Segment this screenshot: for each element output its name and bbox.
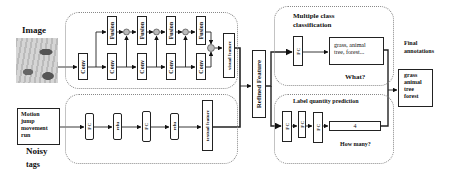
relu-label: relu	[115, 122, 120, 131]
classification-title-line2: classification	[293, 21, 332, 29]
noisy-tags-box: Motion jump movement run	[17, 108, 60, 145]
classification-output-box: grass, animal tree, forest...	[329, 37, 384, 65]
conv-block-1: Conv	[78, 53, 88, 80]
annotation-item: animal	[404, 79, 427, 86]
annotation-item: forest	[404, 93, 427, 100]
classification-output-line1: grass, animal	[334, 42, 379, 49]
fusion-label: Fusion	[139, 22, 145, 39]
textual-feature-label: textual feature	[205, 110, 210, 141]
final-title-line1: Final	[404, 40, 417, 47]
conv-block-5: Conv	[196, 53, 206, 80]
final-annotations-box: grass animal tree forest	[398, 69, 433, 107]
fusion-block-4: Fusion	[196, 16, 206, 45]
textual-feature-block: textual feature	[202, 100, 213, 151]
refined-feature-label: Refined Feature	[256, 60, 263, 108]
conv-label: Conv	[139, 60, 145, 74]
final-title-line2: annotations	[404, 48, 434, 55]
quantity-output-box: 4	[329, 121, 381, 131]
classification-fc-block: FC	[293, 36, 303, 66]
text-relu-block-1: relu	[113, 113, 122, 140]
fusion-label: Fusion	[168, 22, 174, 39]
visual-feature-label: visual feature	[227, 41, 232, 70]
fc-label: FC	[285, 123, 290, 130]
quantity-output-value: 4	[354, 123, 357, 130]
fusion-label: Fusion	[109, 22, 115, 39]
tag-item: movement	[21, 125, 56, 132]
visual-branch-panel	[65, 12, 238, 89]
relu-label: relu	[172, 122, 177, 131]
classification-title-line1: Multiple class	[293, 12, 334, 20]
fusion-block-3: Fusion	[166, 16, 176, 45]
conv-label: Conv	[80, 60, 86, 74]
quantity-question: How many?	[340, 141, 371, 147]
classification-output-line2: tree, forest...	[334, 49, 379, 56]
fc-label: FC	[300, 121, 305, 128]
fc-label: FC	[144, 123, 149, 130]
text-fc-block-2: FC	[142, 111, 151, 142]
tag-item: Motion	[21, 111, 56, 118]
fc-label: FC	[316, 124, 321, 131]
conv-label: Conv	[168, 60, 174, 74]
fc-label: FC	[87, 123, 92, 130]
annotation-item: tree	[404, 86, 427, 93]
input-photo	[16, 38, 58, 83]
fusion-block-1: Fusion	[107, 16, 117, 45]
refined-feature-block: Refined Feature	[252, 50, 266, 118]
tag-item: run	[21, 132, 56, 139]
annotation-item: grass	[404, 72, 427, 79]
fusion-block-2: Fusion	[137, 16, 147, 45]
conv-block-2: Conv	[107, 53, 117, 80]
quantity-fc-block-3: FC	[313, 112, 323, 143]
visual-feature-block: visual feature	[223, 33, 235, 78]
conv-label: Conv	[109, 60, 115, 74]
noisy-tags-label-line1: Noisy	[26, 146, 48, 156]
conv-block-4: Conv	[166, 53, 176, 80]
quantity-fc-block-2: FC	[298, 111, 306, 138]
classification-question: What?	[345, 73, 365, 81]
conv-label: Conv	[198, 60, 204, 74]
image-label: Image	[22, 25, 46, 35]
tag-item: jump	[21, 118, 56, 125]
noisy-tags-label-line2: tags	[26, 160, 40, 169]
fusion-label: Fusion	[198, 22, 204, 39]
quantity-fc-block-1: FC	[282, 111, 292, 142]
quantity-title: Label quantity prediction	[293, 98, 359, 104]
text-fc-block-1: FC	[85, 113, 94, 140]
text-relu-block-2: relu	[170, 113, 179, 140]
conv-block-3: Conv	[137, 53, 147, 80]
fc-label: FC	[296, 48, 301, 55]
